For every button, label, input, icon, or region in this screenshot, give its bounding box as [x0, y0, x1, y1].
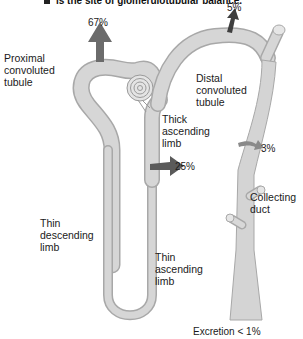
pct-distal: 5% [227, 2, 241, 13]
pct-collecting: 3% [261, 143, 275, 154]
label-thin-ascending-limb: Thin ascending limb [155, 251, 203, 287]
label-proximal-convoluted-tubule: Proximal convoluted tubule [4, 52, 55, 88]
label-distal-convoluted-tubule: Distal convoluted tubule [196, 72, 247, 108]
excretion-label: Excretion < 1% [193, 326, 261, 337]
label-thick-ascending-limb: Thick ascending limb [162, 113, 210, 149]
pct-thick-ascending: 25% [175, 161, 195, 172]
label-thin-descending-limb: Thin descending limb [40, 217, 94, 253]
pct-proximal: 67% [88, 17, 108, 28]
nephron-diagram: .tube { fill: none; stroke: #a8a8a8; str… [0, 0, 303, 339]
label-collecting-duct: Collecting duct [250, 191, 296, 215]
glomerulus-coil [127, 75, 153, 112]
arrow-67-icon [88, 22, 112, 62]
